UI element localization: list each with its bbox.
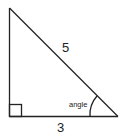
base-label: 3: [57, 120, 64, 135]
right-angle-marker: [10, 105, 22, 117]
triangle: [10, 8, 119, 117]
right-triangle-diagram: 5 3 angle: [0, 0, 123, 138]
angle-label: angle: [69, 100, 87, 109]
hypotenuse-label: 5: [62, 40, 69, 55]
angle-arc: [90, 96, 97, 117]
hypotenuse: [10, 8, 119, 117]
